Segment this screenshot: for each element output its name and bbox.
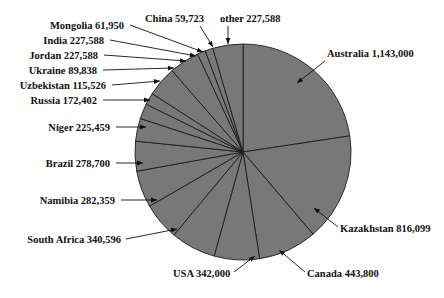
- callout-label-uzbekistan: Uzbekistan 115,526: [20, 80, 106, 91]
- callout-label-brazil: Brazil 278,700: [46, 158, 110, 169]
- pie-slices: [135, 44, 351, 260]
- leader-arrowhead-other: [226, 38, 231, 44]
- leader-line-india: [110, 40, 196, 56]
- callout-label-india: India 227,588: [43, 35, 104, 46]
- callout-label-australia: Australia 1,143,000: [327, 48, 414, 59]
- pie-chart-figure: Australia 1,143,000Kazakhstan 816,099Can…: [0, 0, 444, 298]
- leader-line-jordan: [104, 55, 186, 61]
- callout-label-jordan: Jordan 227,588: [29, 50, 98, 61]
- pie-slice-australia: [243, 44, 350, 152]
- callout-label-south-africa: South Africa 340,596: [27, 234, 121, 245]
- chart-canvas: Australia 1,143,000Kazakhstan 816,099Can…: [0, 0, 444, 298]
- callout-label-mongolia: Mongolia 61,950: [50, 20, 124, 31]
- callout-label-niger: Niger 225,459: [48, 122, 110, 133]
- callout-label-china: China 59,723: [145, 13, 204, 24]
- callout-label-usa: USA 342,000: [173, 268, 230, 279]
- callout-label-other: other 227,588: [220, 13, 280, 24]
- callout-label-kazakhstan: Kazakhstan 816,099: [340, 223, 430, 234]
- leader-line-south-africa: [126, 229, 177, 239]
- leader-arrowhead-mongolia: [197, 48, 203, 53]
- callout-label-canada: Canada 443,800: [307, 268, 379, 279]
- leader-line-ukraine: [103, 68, 174, 70]
- leader-arrowhead-china: [208, 41, 213, 47]
- callout-label-ukraine: Ukraine 89,838: [29, 65, 97, 76]
- leader-line-uzbekistan: [112, 81, 160, 85]
- leader-line-mongolia: [130, 25, 203, 52]
- callout-label-namibia: Namibia 282,359: [40, 195, 115, 206]
- callout-label-russia: Russia 172,402: [30, 95, 97, 106]
